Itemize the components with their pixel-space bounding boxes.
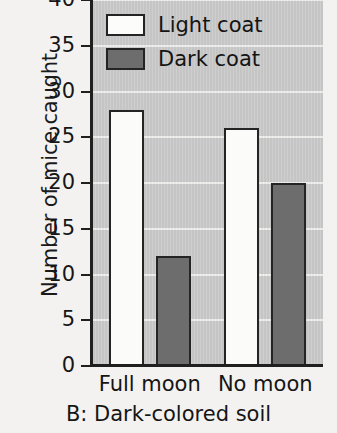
bar-chart-figure: Number of mice caught 0510152025303540 L… [0,0,337,433]
y-axis-tick-label: 40 [15,0,75,10]
gridline [92,91,323,93]
bar-no-moon-dark-coat [271,183,306,366]
legend-entry-light-coat: Light coat [106,8,263,42]
y-axis-tick-label: 0 [15,355,75,376]
legend-label: Dark coat [158,47,260,71]
y-axis-tick [81,274,91,276]
bar-full-moon-light-coat [109,110,144,366]
chart-title: B: Dark-colored soil [0,402,337,426]
y-axis-tick-label: 35 [15,35,75,56]
y-axis-tick-label: 10 [15,264,75,285]
y-axis-tick [81,136,91,138]
x-axis-line [90,364,323,367]
y-axis-tick-label: 20 [15,172,75,193]
y-axis-tick [81,365,91,367]
y-axis-tick [81,319,91,321]
y-axis-tick-label: 15 [15,218,75,239]
legend: Light coatDark coat [106,8,263,76]
y-axis-tick [81,91,91,93]
y-axis-tick-label: 30 [15,81,75,102]
y-axis-tick [81,182,91,184]
y-axis-tick [81,228,91,230]
bar-full-moon-dark-coat [156,256,191,366]
legend-swatch-dark [106,48,145,70]
x-axis-label-no-moon: No moon [190,372,337,396]
y-axis-tick-label: 5 [15,309,75,330]
y-axis-tick [81,0,91,1]
legend-label: Light coat [158,13,263,37]
legend-entry-dark-coat: Dark coat [106,42,263,76]
gridline [92,0,323,1]
bar-no-moon-light-coat [224,128,259,366]
y-axis-tick [81,45,91,47]
legend-swatch-light [106,14,145,36]
y-axis-tick-label: 25 [15,126,75,147]
